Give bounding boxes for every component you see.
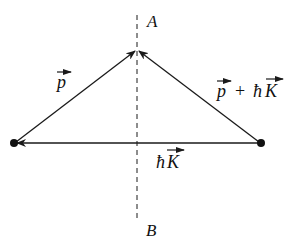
left-point-dot <box>10 139 18 147</box>
vector-p-arrow <box>16 51 135 142</box>
label-a: A <box>146 12 158 31</box>
svg-text:ħ: ħ <box>156 152 165 172</box>
label-p-plus-hk-vector: p + ħ K <box>215 79 283 101</box>
svg-text:K: K <box>264 81 278 101</box>
svg-text:K: K <box>166 152 180 172</box>
bragg-diagram: A B p p + ħ K ħ K <box>0 0 290 246</box>
label-b: B <box>146 221 157 240</box>
svg-text:p: p <box>55 72 66 92</box>
svg-text:ħ: ħ <box>253 81 262 101</box>
label-p-vector: p <box>55 72 71 92</box>
label-hk-vector: ħ K <box>156 150 184 172</box>
svg-text:+: + <box>235 81 245 101</box>
right-point-dot <box>257 139 265 147</box>
svg-text:p: p <box>215 81 226 101</box>
